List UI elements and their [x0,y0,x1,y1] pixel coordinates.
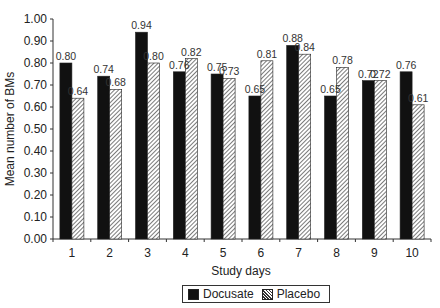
x-tick-label: 3 [144,246,151,260]
data-label: 0.84 [294,41,315,53]
placebo-swatch-icon [262,289,273,300]
docusate-bar [98,76,110,239]
data-label: 0.82 [181,46,202,58]
y-tick-label: 0.60 [24,100,48,114]
data-label: 0.80 [56,50,77,62]
y-tick-label: 0.20 [24,188,48,202]
placebo-bar [223,78,235,239]
placebo-bar [110,89,122,239]
docusate-bar [136,32,148,239]
placebo-bar [72,98,84,239]
data-label: 0.74 [93,63,114,75]
docusate-bar [362,81,374,239]
placebo-bar [412,105,424,239]
x-tick-label: 4 [182,246,189,260]
docusate-swatch-icon [188,289,199,300]
data-label: 0.76 [396,59,417,71]
docusate-bar [173,72,185,239]
docusate-bar [211,74,223,239]
docusate-bar [249,96,261,239]
x-tick-label: 5 [220,246,227,260]
placebo-bar [185,59,197,239]
data-label: 0.94 [131,19,152,31]
x-tick-label: 2 [106,246,113,260]
x-tick-label: 1 [69,246,76,260]
bar-chart: 0.000.100.200.300.400.500.600.700.800.90… [0,0,440,308]
data-label: 0.64 [68,85,89,97]
placebo-bar [148,63,160,239]
x-axis-label: Study days [211,264,270,278]
data-label: 0.65 [320,83,341,95]
y-tick-label: 0.90 [24,34,48,48]
y-tick-label: 0.00 [24,232,48,246]
x-tick-label: 9 [371,246,378,260]
y-tick-label: 1.00 [24,12,48,26]
y-tick-label: 0.70 [24,78,48,92]
data-label: 0.81 [257,48,278,60]
placebo-bar [374,81,386,239]
y-tick-label: 0.50 [24,122,48,136]
legend-docusate: Docusate [203,287,254,301]
docusate-bar [287,45,299,239]
data-label: 0.78 [332,54,353,66]
x-tick-label: 10 [405,246,419,260]
legend: Docusate Placebo [182,285,330,303]
y-tick-label: 0.80 [24,56,48,70]
x-tick-label: 6 [258,246,265,260]
y-tick-label: 0.30 [24,166,48,180]
docusate-bar [325,96,337,239]
y-tick-label: 0.40 [24,144,48,158]
data-label: 0.61 [408,92,429,104]
legend-placebo: Placebo [277,287,320,301]
y-tick-label: 0.10 [24,210,48,224]
y-axis-label: Mean number of BMs [3,72,17,187]
data-label: 0.72 [370,68,391,80]
bars [60,32,424,239]
x-tick-label: 8 [333,246,340,260]
data-label: 0.65 [245,83,266,95]
data-label: 0.68 [105,76,126,88]
data-label: 0.76 [169,59,190,71]
data-label: 0.80 [143,50,164,62]
data-label: 0.73 [219,65,240,77]
x-tick-label: 7 [295,246,302,260]
placebo-bar [299,54,311,239]
